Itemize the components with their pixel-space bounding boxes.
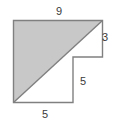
geometry-drawing (0, 0, 120, 124)
geometry-figure: 9 3 5 5 (0, 0, 120, 124)
dimension-label-inner-vertical: 5 (77, 76, 89, 87)
dimension-label-right: 3 (99, 32, 111, 43)
dimension-label-top: 9 (52, 6, 66, 17)
dimension-label-bottom: 5 (38, 109, 52, 120)
